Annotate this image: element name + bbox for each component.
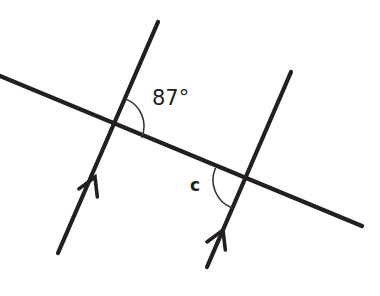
geometry-diagram: 87° c: [0, 0, 380, 296]
angle-label-c: c: [190, 175, 200, 195]
angle-label-87-degrees: 87°: [152, 86, 189, 110]
geometry-canvas: 87° c: [0, 0, 380, 296]
